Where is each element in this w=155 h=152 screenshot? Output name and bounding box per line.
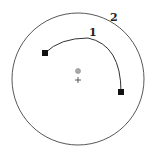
diagram-canvas: 1 2 bbox=[0, 0, 155, 152]
center-cross-icon bbox=[75, 77, 81, 83]
arc-start-handle[interactable] bbox=[42, 50, 48, 56]
center-dot-icon bbox=[76, 69, 81, 74]
arc-label: 1 bbox=[89, 26, 97, 39]
arc-end-handle[interactable] bbox=[118, 89, 124, 95]
arc-1 bbox=[45, 38, 121, 92]
circle-label: 2 bbox=[110, 11, 118, 24]
